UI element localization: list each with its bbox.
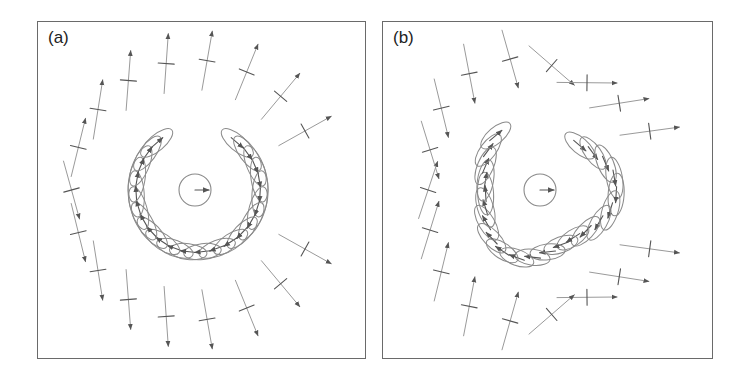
panel-b-field (419, 30, 680, 350)
panel-a-field (64, 31, 332, 349)
vector-field-diagram (0, 0, 739, 376)
